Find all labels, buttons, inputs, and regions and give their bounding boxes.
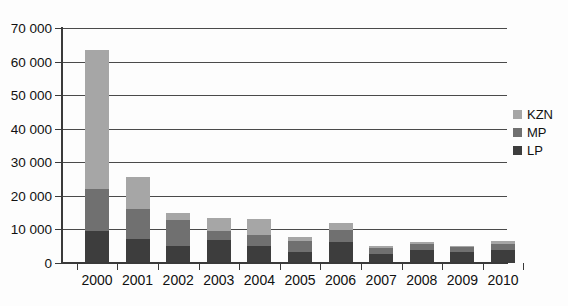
x-axis-tick — [402, 263, 403, 270]
bar-stack — [166, 28, 190, 263]
x-axis-tick-label: 2000 — [81, 272, 112, 288]
legend-item-lp[interactable]: LP — [513, 142, 568, 158]
bar-segment-kzn — [491, 241, 515, 244]
x-axis-tick-label: 2007 — [366, 272, 397, 288]
bar-segment-kzn — [329, 223, 353, 230]
x-axis-tick-label: 2006 — [325, 272, 356, 288]
bar-segment-mp — [288, 241, 312, 252]
x-axis-tick-label: 2002 — [163, 272, 194, 288]
plot-area — [62, 28, 507, 263]
legend-label: LP — [527, 144, 543, 157]
x-axis-tick — [158, 263, 159, 270]
chart-legend: KZNMPLP — [513, 106, 568, 160]
x-axis-tick — [483, 263, 484, 270]
x-axis-tick-label: 2010 — [487, 272, 518, 288]
y-axis-tick-label: 50 000 — [0, 88, 52, 103]
bar-stack — [207, 28, 231, 263]
bar-segment-mp — [166, 220, 190, 246]
bar-segment-kzn — [288, 237, 312, 241]
bar-segment-mp — [369, 248, 393, 254]
legend-item-kzn[interactable]: KZN — [513, 106, 568, 122]
bar-stack — [85, 28, 109, 263]
bar-segment-mp — [85, 189, 109, 231]
x-axis-tick-label: 2008 — [406, 272, 437, 288]
x-axis-tick — [523, 263, 524, 270]
y-axis-tick-label: 30 000 — [0, 155, 52, 170]
x-axis-tick-label: 2005 — [284, 272, 315, 288]
bar-stack — [369, 28, 393, 263]
legend-label: MP — [527, 126, 547, 139]
y-axis-tick-label: 40 000 — [0, 121, 52, 136]
x-axis-line — [61, 262, 508, 264]
bar-stack — [126, 28, 150, 263]
x-axis-tick — [77, 263, 78, 270]
bar-segment-mp — [410, 244, 434, 249]
bar-segment-kzn — [410, 242, 434, 244]
x-axis-tick — [239, 263, 240, 270]
bar-segment-kzn — [207, 218, 231, 231]
stacked-bar-chart: 010 00020 00030 00040 00050 00060 00070 … — [0, 0, 568, 306]
bar-segment-mp — [491, 244, 515, 250]
x-axis-tick-label: 2009 — [447, 272, 478, 288]
bar-segment-lp — [410, 250, 434, 263]
bar-segment-lp — [207, 240, 231, 264]
bar-stack — [247, 28, 271, 263]
legend-swatch-icon — [513, 146, 522, 155]
bar-segment-kzn — [126, 177, 150, 210]
legend-label: KZN — [527, 108, 553, 121]
x-axis-tick-label: 2001 — [122, 272, 153, 288]
bar-segment-lp — [85, 231, 109, 263]
bar-segment-mp — [126, 209, 150, 238]
x-axis-tick-label: 2003 — [203, 272, 234, 288]
x-axis-tick — [442, 263, 443, 270]
bar-stack — [491, 28, 515, 263]
bar-segment-kzn — [247, 219, 271, 235]
y-axis-tick-label: 70 000 — [0, 21, 52, 36]
x-axis-tick — [320, 263, 321, 270]
bar-segment-mp — [450, 247, 474, 252]
bar-segment-mp — [207, 231, 231, 239]
legend-swatch-icon — [513, 128, 522, 137]
bar-stack — [288, 28, 312, 263]
y-axis-line — [61, 27, 63, 264]
bar-segment-kzn — [369, 246, 393, 248]
bar-segment-kzn — [450, 246, 474, 248]
y-axis-tick-label: 0 — [0, 256, 52, 271]
bar-segment-kzn — [166, 213, 190, 220]
y-axis-tick-label: 60 000 — [0, 54, 52, 69]
x-axis-tick — [117, 263, 118, 270]
legend-swatch-icon — [513, 110, 522, 119]
bar-segment-lp — [126, 239, 150, 264]
legend-item-mp[interactable]: MP — [513, 124, 568, 140]
bar-stack — [450, 28, 474, 263]
bar-segment-mp — [329, 230, 353, 242]
bar-stack — [329, 28, 353, 263]
x-axis-tick-label: 2004 — [244, 272, 275, 288]
bar-segment-mp — [247, 235, 271, 246]
bar-segment-lp — [329, 242, 353, 263]
x-axis-tick — [199, 263, 200, 270]
bar-segment-lp — [166, 246, 190, 263]
bar-stack — [410, 28, 434, 263]
bar-segment-lp — [247, 246, 271, 263]
x-axis-tick — [361, 263, 362, 270]
y-axis-tick-label: 20 000 — [0, 188, 52, 203]
x-axis-tick — [280, 263, 281, 270]
y-axis-tick-label: 10 000 — [0, 222, 52, 237]
bar-segment-kzn — [85, 50, 109, 189]
